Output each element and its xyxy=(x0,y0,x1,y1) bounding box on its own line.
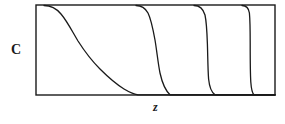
concentration-profile-figure: C z xyxy=(0,0,285,124)
x-axis-label: z xyxy=(153,101,158,113)
y-axis-label: C xyxy=(11,43,21,57)
plot-svg xyxy=(0,0,285,124)
plot-frame xyxy=(36,5,275,95)
